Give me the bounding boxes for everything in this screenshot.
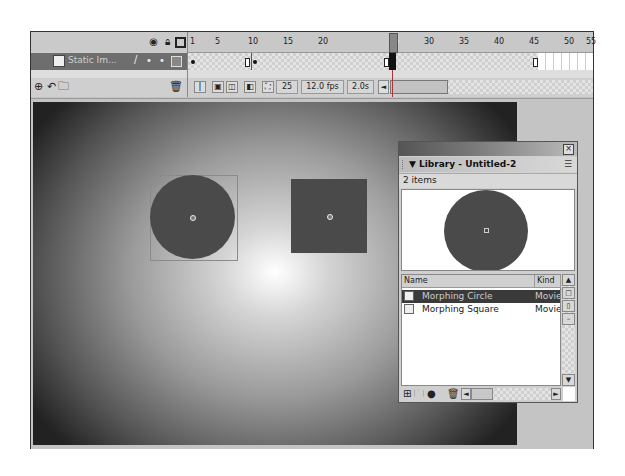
ruler-label: 40 [494, 37, 504, 46]
layer-icon [53, 55, 65, 67]
current-frame-field: 25 [276, 80, 298, 94]
item-kind: Movie Clip [535, 303, 560, 316]
item-count-label: 2 items [403, 175, 437, 185]
scroll-up-button[interactable]: ▲ [562, 274, 575, 286]
properties-icon[interactable]: ● [427, 388, 436, 400]
delete-icon[interactable]: 🗑︎ [447, 388, 460, 400]
layer-gap [31, 70, 187, 78]
onion-skin-outlines-button[interactable]: ◫ [226, 81, 238, 93]
end-keyframe[interactable] [245, 58, 250, 67]
timeline-scroll-thumb[interactable] [390, 80, 448, 94]
layer-header: ◉ 🔒︎ [31, 32, 187, 52]
frames-area: 1 5 10 15 20 25 30 35 40 45 50 55 [188, 32, 593, 97]
registration-point [327, 214, 333, 220]
column-header-kind[interactable]: Kind [535, 275, 561, 288]
library-header[interactable]: ▼ Library - Untitled-2 ☰ [399, 157, 577, 172]
playhead[interactable] [389, 33, 398, 53]
timeline-panel: ◉ 🔒︎ Static Im... / • • ⊕ ↶ 🗀︎ 🗑︎ [31, 32, 593, 97]
ruler-label: 5 [215, 37, 220, 46]
library-bottom-bar: ⊞ 🗀︎ ● 🗑︎ ◄ ► [401, 387, 575, 401]
scroll-left-button[interactable]: ◄ [378, 80, 389, 94]
registration-point [190, 215, 196, 221]
current-frame-marker[interactable] [389, 53, 396, 70]
layer-frames[interactable] [188, 53, 538, 71]
keyframe-1[interactable] [191, 60, 195, 64]
library-hscroll[interactable]: ◄ ► [461, 388, 561, 400]
library-item-count: 2 items [399, 173, 577, 188]
insert-folder-icon[interactable]: 🗀︎ [58, 81, 69, 93]
sort-button[interactable]: – [562, 313, 575, 325]
center-frame-button[interactable]: ǀ [194, 81, 206, 93]
library-panel: × ▼ Library - Untitled-2 ☰ 2 items Name … [398, 141, 578, 403]
ruler-label: 45 [529, 37, 539, 46]
onion-skin-button[interactable]: ▣ [212, 81, 224, 93]
flash-ide-window: ◉ 🔒︎ Static Im... / • • ⊕ ↶ 🗀︎ 🗑︎ [30, 31, 594, 449]
timeline-status-bar: ǀ ▣ ◫ ◧ ⛶ 25 12.0 fps 2.0s ◄ [188, 78, 593, 97]
scroll-left-button[interactable]: ◄ [461, 388, 471, 400]
library-list: Name Kind Morphing Circle Movie Clip Mor… [401, 274, 561, 386]
item-kind: Movie Clip [535, 290, 560, 303]
elapsed-time-field: 2.0s [347, 80, 374, 94]
frame-rate-field[interactable]: 12.0 fps [301, 80, 344, 94]
layer-name[interactable]: Static Im... [68, 55, 117, 65]
ruler-label: 15 [283, 37, 293, 46]
resize-corner[interactable] [563, 387, 575, 401]
layers-column: ◉ 🔒︎ Static Im... / • • ⊕ ↶ 🗀︎ 🗑︎ [31, 32, 188, 97]
ruler-label: 30 [424, 37, 434, 46]
segment-divider [251, 53, 252, 70]
movie-clip-icon [404, 304, 414, 314]
narrow-view-button[interactable]: ▯ [562, 300, 575, 312]
visibility-dot[interactable]: • [146, 55, 152, 66]
new-folder-icon[interactable]: 🗀︎ [414, 388, 424, 400]
empty-frames[interactable] [538, 53, 593, 70]
end-keyframe-50[interactable] [533, 58, 538, 67]
library-vscroll[interactable]: ▲ □ ▯ – ▼ [562, 274, 575, 386]
column-header-name[interactable]: Name [402, 275, 535, 288]
new-symbol-icon[interactable]: ⊞ [403, 388, 411, 400]
library-hscroll-thumb[interactable] [471, 388, 493, 400]
grip-icon[interactable] [402, 160, 405, 169]
stage-area: × ▼ Library - Untitled-2 ☰ 2 items Name … [31, 98, 593, 449]
lock-dot[interactable]: • [159, 55, 165, 66]
preview-registration-point [484, 228, 489, 233]
status-gap [188, 70, 593, 78]
ruler-label: 10 [248, 37, 258, 46]
ruler-label: 55 [586, 37, 596, 46]
library-item[interactable]: Morphing Square Movie Clip [402, 303, 560, 316]
delete-layer-icon[interactable]: 🗑︎ [169, 81, 183, 93]
lock-icon[interactable]: 🔒︎ [162, 36, 173, 47]
library-titlebar[interactable]: × [399, 142, 577, 156]
scroll-right-button[interactable]: ► [551, 388, 561, 400]
layer-tools: ⊕ ↶ 🗀︎ 🗑︎ [31, 78, 187, 97]
wide-view-button[interactable]: □ [562, 287, 575, 299]
movie-clip-icon [404, 291, 414, 301]
close-icon[interactable]: × [563, 144, 574, 155]
outline-icon[interactable] [175, 37, 186, 48]
item-name: Morphing Circle [422, 290, 492, 303]
library-preview [401, 189, 575, 271]
scroll-down-button[interactable]: ▼ [562, 374, 575, 386]
playhead-line [392, 70, 393, 97]
options-menu-icon[interactable]: ☰ [564, 159, 572, 169]
ruler-label: 1 [190, 37, 195, 46]
item-name: Morphing Square [422, 303, 499, 316]
layer-row[interactable]: Static Im... / • • [31, 53, 187, 70]
library-item[interactable]: Morphing Circle Movie Clip [402, 290, 560, 303]
pencil-icon: / [134, 54, 137, 65]
eye-icon[interactable]: ◉ [148, 36, 159, 47]
ruler-label: 35 [459, 37, 469, 46]
outline-toggle[interactable] [171, 56, 182, 67]
insert-layer-icon[interactable]: ⊕ [34, 81, 43, 93]
add-motion-guide-icon[interactable]: ↶ [47, 81, 56, 93]
library-title: ▼ Library - Untitled-2 [409, 159, 516, 169]
keyframe-10[interactable] [253, 60, 257, 64]
edit-multiple-frames-button[interactable]: ◧ [244, 81, 256, 93]
ruler-label: 20 [318, 37, 328, 46]
modify-onion-markers-button[interactable]: ⛶ [262, 81, 274, 93]
ruler-label: 50 [564, 37, 574, 46]
